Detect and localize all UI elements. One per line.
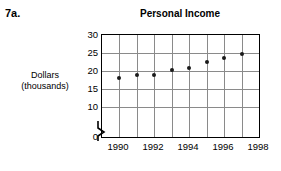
data-point: [117, 76, 121, 80]
gridline-horizontal: [102, 71, 259, 72]
gridline-vertical: [137, 35, 138, 137]
chart-title: Personal Income: [100, 8, 260, 20]
y-axis-break-icon: [95, 121, 113, 141]
y-tick-label: 25: [76, 48, 98, 58]
gridline-vertical: [224, 35, 225, 137]
gridline-horizontal: [102, 89, 259, 90]
gridline-horizontal: [102, 53, 259, 54]
data-point: [205, 60, 209, 64]
data-point: [135, 73, 139, 77]
data-point: [222, 56, 226, 60]
data-point: [152, 73, 156, 77]
gridline-vertical: [119, 35, 120, 137]
problem-number-label: 7a.: [5, 7, 20, 19]
x-tick-label: 1992: [137, 141, 169, 152]
y-axis-label-line-2: (thousands): [14, 81, 76, 92]
data-point: [240, 52, 244, 56]
gridline-vertical: [242, 35, 243, 137]
x-axis-tick-labels: 1990 1992 1994 1996 1998: [101, 141, 281, 155]
y-tick-label: 10: [76, 102, 98, 112]
gridline-vertical: [154, 35, 155, 137]
gridline-horizontal: [102, 107, 259, 108]
gridline-vertical: [172, 35, 173, 137]
y-axis-label-line-1: Dollars: [14, 70, 76, 81]
plot-area: [101, 34, 260, 138]
y-tick-label: 15: [76, 84, 98, 94]
gridline-vertical: [189, 35, 190, 137]
y-tick-label: 30: [76, 30, 98, 40]
y-tick-label: 20: [76, 66, 98, 76]
x-tick-label: 1990: [102, 141, 134, 152]
gridline-vertical: [207, 35, 208, 137]
x-tick-label: 1994: [172, 141, 204, 152]
data-point: [187, 66, 191, 70]
x-tick-label: 1998: [242, 141, 274, 152]
y-axis-label: Dollars (thousands): [14, 70, 76, 92]
x-tick-label: 1996: [207, 141, 239, 152]
personal-income-figure: 7a. Personal Income Dollars (thousands) …: [0, 0, 281, 171]
